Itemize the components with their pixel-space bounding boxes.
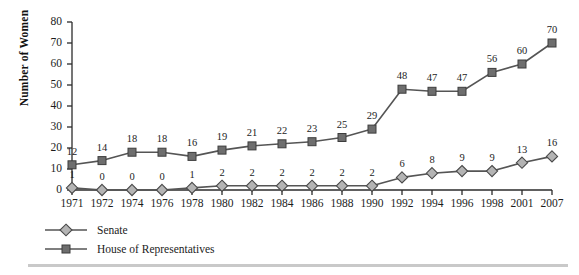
- legend-label-senate: Senate: [97, 224, 128, 236]
- legend-item-senate[interactable]: Senate: [44, 220, 215, 239]
- house-marker-icon: [44, 241, 88, 257]
- chart-legend: Senate House of Representatives: [44, 220, 215, 258]
- legend-item-house[interactable]: House of Representatives: [44, 239, 215, 258]
- legend-label-house: House of Representatives: [97, 243, 215, 255]
- chart-figure: Number of Women 01020304050607080 197119…: [0, 0, 579, 275]
- senate-marker-icon: [44, 222, 88, 238]
- bottom-rule: [28, 264, 568, 267]
